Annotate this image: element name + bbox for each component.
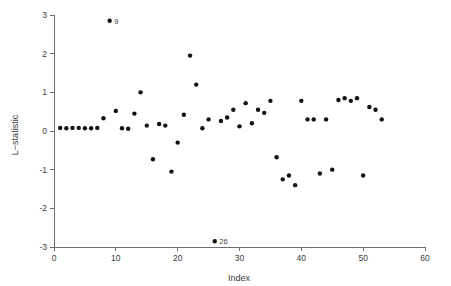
data-point: [175, 140, 179, 144]
data-point: [287, 173, 291, 177]
data-point: [281, 177, 285, 181]
data-point: [138, 90, 142, 94]
data-point: [151, 157, 155, 161]
x-tick-label: 50: [358, 253, 368, 263]
data-point: [132, 111, 136, 115]
data-point: [114, 109, 118, 113]
data-point: [213, 239, 217, 243]
data-point: [107, 19, 111, 23]
data-point: [256, 108, 260, 112]
y-tick-label: -3: [39, 242, 47, 252]
data-point: [237, 124, 241, 128]
data-point: [373, 108, 377, 112]
data-point: [250, 121, 254, 125]
data-point: [355, 96, 359, 100]
y-axis-ticks: -3-2-10123: [39, 10, 54, 252]
data-point: [101, 116, 105, 120]
data-point: [243, 101, 247, 105]
data-point: [64, 126, 68, 130]
x-tick-label: 60: [420, 253, 430, 263]
scatter-plot-figure: 0102030405060 -3-2-10123 926 Index L−sta…: [0, 0, 451, 286]
data-point: [268, 99, 272, 103]
data-points-layer: [58, 19, 384, 244]
data-point: [299, 99, 303, 103]
y-tick-label: 1: [42, 87, 47, 97]
data-point: [380, 117, 384, 121]
data-point: [58, 126, 62, 130]
plot-canvas: 0102030405060 -3-2-10123 926 Index L−sta…: [0, 0, 451, 286]
x-axis-title: Index: [228, 273, 251, 283]
y-tick-label: -2: [39, 203, 47, 213]
data-point: [367, 105, 371, 109]
x-tick-label: 20: [173, 253, 183, 263]
data-point: [200, 126, 204, 130]
data-point: [77, 126, 81, 130]
data-point: [182, 113, 186, 117]
x-tick-label: 40: [297, 253, 307, 263]
x-tick-label: 10: [111, 253, 121, 263]
data-point: [169, 169, 173, 173]
y-tick-label: -1: [39, 165, 47, 175]
y-tick-label: 2: [42, 49, 47, 59]
data-point: [262, 111, 266, 115]
data-point: [157, 122, 161, 126]
point-annotation-label: 9: [114, 17, 118, 26]
data-point: [312, 117, 316, 121]
data-point: [163, 123, 167, 127]
x-tick-label: 30: [235, 253, 245, 263]
data-point: [274, 155, 278, 159]
x-tick-label: 0: [52, 253, 57, 263]
point-annotation-label: 26: [219, 237, 227, 246]
data-point: [225, 115, 229, 119]
data-point: [188, 53, 192, 57]
data-point: [219, 119, 223, 123]
data-point: [95, 126, 99, 130]
data-point: [194, 82, 198, 86]
data-point: [231, 108, 235, 112]
data-point: [318, 171, 322, 175]
y-tick-label: 3: [42, 10, 47, 20]
data-point: [342, 96, 346, 100]
data-point: [361, 173, 365, 177]
data-point: [305, 117, 309, 121]
point-annotations-layer: 926: [114, 17, 227, 246]
data-point: [206, 117, 210, 121]
y-axis-title: L−statistic: [10, 114, 20, 155]
x-axis-ticks: 0102030405060: [52, 247, 430, 263]
data-point: [70, 126, 74, 130]
data-point: [83, 126, 87, 130]
data-point: [293, 183, 297, 187]
data-point: [120, 126, 124, 130]
data-point: [126, 126, 130, 130]
data-point: [324, 117, 328, 121]
axis-layer: [54, 15, 425, 247]
y-tick-label: 0: [42, 126, 47, 136]
data-point: [349, 99, 353, 103]
data-point: [145, 123, 149, 127]
data-point: [336, 98, 340, 102]
data-point: [330, 167, 334, 171]
data-point: [89, 126, 93, 130]
